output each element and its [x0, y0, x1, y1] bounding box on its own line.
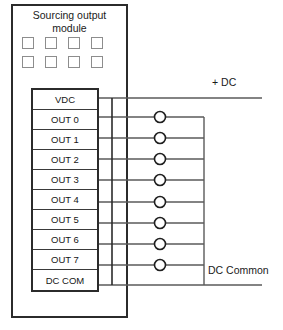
load-symbol [155, 218, 166, 229]
indicator-led [45, 37, 57, 49]
terminal-out-4: OUT 4 [33, 190, 97, 210]
indicator-led [45, 56, 57, 68]
terminal-out-1: OUT 1 [33, 130, 97, 150]
load-symbol [155, 239, 166, 250]
terminal-out-7: OUT 7 [33, 250, 97, 270]
wiring-diagram: Sourcing output module VDC OUT 0 OUT 1 O… [0, 0, 283, 330]
terminal-vdc: VDC [33, 90, 97, 110]
indicator-led [22, 37, 34, 49]
indicator-led [22, 56, 34, 68]
terminal-out-3: OUT 3 [33, 170, 97, 190]
terminal-block: VDC OUT 0 OUT 1 OUT 2 OUT 3 OUT 4 OUT 5 … [31, 88, 99, 292]
load-symbol [155, 260, 166, 271]
indicator-led [68, 56, 80, 68]
indicator-led [68, 37, 80, 49]
indicator-led [91, 37, 103, 49]
module-title: Sourcing output module [11, 9, 128, 35]
terminal-out-0: OUT 0 [33, 110, 97, 130]
load-symbol [155, 112, 166, 123]
load-symbol [155, 154, 166, 165]
terminal-out-6: OUT 6 [33, 230, 97, 250]
terminal-dc-com: DC COM [33, 270, 97, 290]
indicator-led-grid [22, 37, 118, 68]
load-symbol [155, 175, 166, 186]
load-symbol [155, 133, 166, 144]
terminal-out-2: OUT 2 [33, 150, 97, 170]
common-rail-label: DC Common [208, 264, 269, 276]
indicator-led [91, 56, 103, 68]
load-symbol [155, 197, 166, 208]
terminal-out-5: OUT 5 [33, 210, 97, 230]
supply-rail-label: + DC [212, 76, 236, 88]
